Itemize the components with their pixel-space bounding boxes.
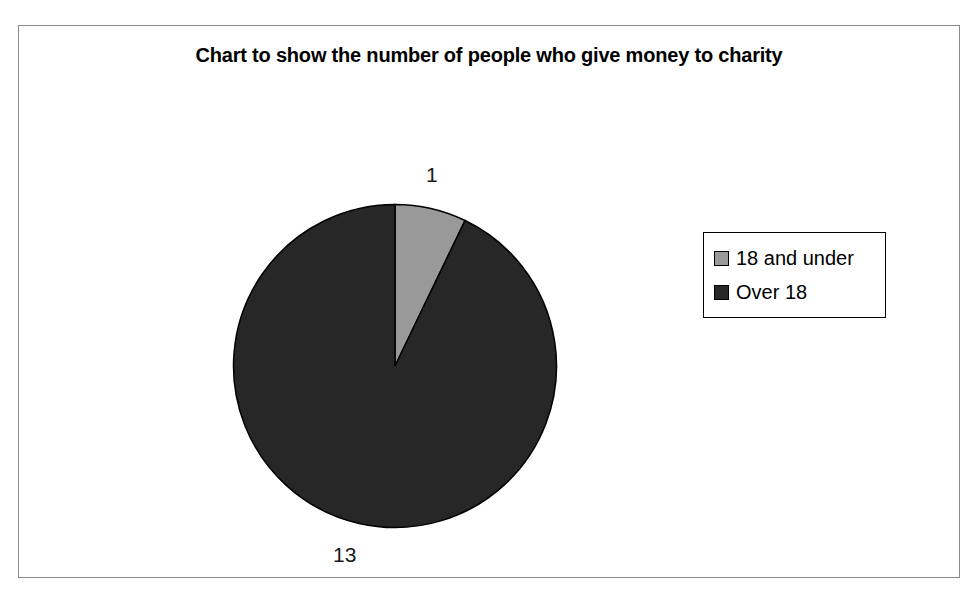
pie-slices [234,205,557,528]
legend-swatch-icon [714,285,729,300]
pie-chart [232,203,558,529]
legend-item-over-18[interactable]: Over 18 [714,275,885,309]
legend-item-label: 18 and under [736,248,854,268]
pie-svg [232,203,558,529]
legend-swatch-icon [714,251,729,266]
legend-item-label: Over 18 [736,282,807,302]
pie-slice[interactable] [234,205,557,528]
chart-legend: 18 and under Over 18 [703,232,886,318]
data-label-over-18: 13 [333,543,356,567]
chart-title: Chart to show the number of people who g… [0,44,978,67]
data-label-18-and-under: 1 [426,163,438,187]
chart-screenshot: Chart to show the number of people who g… [0,0,978,597]
legend-item-18-and-under[interactable]: 18 and under [714,241,885,275]
